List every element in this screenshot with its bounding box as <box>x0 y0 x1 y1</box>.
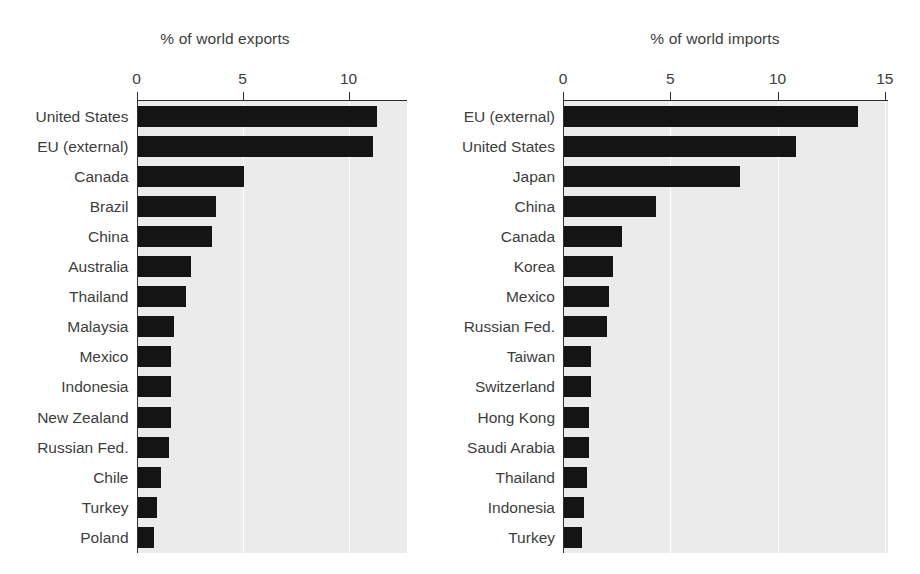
gridline <box>885 101 886 553</box>
x-axis-tick-label: 5 <box>238 70 247 88</box>
category-labels-exports: United StatesEU (external)CanadaBrazilCh… <box>1 101 129 553</box>
category-label: Malaysia <box>67 316 128 337</box>
x-axis-tick-label: 15 <box>876 70 893 88</box>
category-label: Japan <box>513 166 555 187</box>
category-label: Indonesia <box>61 376 128 397</box>
bar <box>138 136 373 157</box>
bar <box>138 286 187 307</box>
chart-title-exports: % of world exports <box>80 30 370 48</box>
category-label: Thailand <box>69 286 128 307</box>
category-label: EU (external) <box>464 106 555 127</box>
bar <box>138 196 216 217</box>
category-label: Korea <box>514 256 555 277</box>
bar <box>138 497 157 518</box>
x-axis-tick <box>563 92 564 101</box>
bar <box>564 346 591 367</box>
category-label: New Zealand <box>37 407 128 428</box>
category-label: Russian Fed. <box>464 316 555 337</box>
x-axis-tick-label: 0 <box>132 70 141 88</box>
bar <box>564 497 584 518</box>
category-label: Canada <box>74 166 128 187</box>
category-label: Mexico <box>79 346 128 367</box>
bar <box>564 106 858 127</box>
category-label: EU (external) <box>37 136 128 157</box>
category-label: Thailand <box>496 467 555 488</box>
x-axis-tick-label: 10 <box>340 70 357 88</box>
category-label: Turkey <box>508 527 555 548</box>
plot-area-exports <box>137 101 408 553</box>
bar <box>564 256 613 277</box>
bar <box>564 166 740 187</box>
gridline <box>349 101 350 553</box>
category-label: Switzerland <box>475 376 555 397</box>
category-label: Taiwan <box>507 346 555 367</box>
gridline <box>778 101 779 553</box>
category-label: United States <box>35 106 128 127</box>
bar <box>138 437 170 458</box>
category-label: Chile <box>93 467 128 488</box>
category-label: Turkey <box>82 497 129 518</box>
bar <box>564 527 582 548</box>
bar <box>138 407 172 428</box>
chart-panel-exports: % of world exports 0510 United StatesEU … <box>0 0 460 574</box>
bar <box>138 467 161 488</box>
x-axis-tick <box>670 92 671 101</box>
category-label: Mexico <box>506 286 555 307</box>
x-axis-imports: 051015 <box>563 67 888 101</box>
x-axis-tick-label: 10 <box>769 70 786 88</box>
bar <box>564 467 587 488</box>
bar <box>138 527 155 548</box>
x-axis-tick <box>885 92 886 101</box>
category-label: United States <box>462 136 555 157</box>
x-axis-exports: 0510 <box>137 67 408 101</box>
category-label: China <box>88 226 129 247</box>
bar <box>138 256 191 277</box>
bar <box>138 346 172 367</box>
category-label: Brazil <box>90 196 129 217</box>
bar <box>138 106 378 127</box>
bar <box>138 316 174 337</box>
plot-area-imports <box>563 101 888 553</box>
x-axis-tick <box>137 92 138 101</box>
category-label: Hong Kong <box>477 407 555 428</box>
category-label: Indonesia <box>488 497 555 518</box>
bar <box>564 226 622 247</box>
x-axis-tick <box>243 92 244 101</box>
x-axis-tick <box>349 92 350 101</box>
x-axis-tick-label: 5 <box>666 70 675 88</box>
bar <box>564 196 656 217</box>
bar <box>564 407 589 428</box>
category-label: Poland <box>80 527 128 548</box>
category-label: China <box>515 196 556 217</box>
bar <box>564 437 589 458</box>
category-label: Russian Fed. <box>37 437 128 458</box>
bar <box>564 136 796 157</box>
x-axis-tick-label: 0 <box>559 70 568 88</box>
category-label: Saudi Arabia <box>467 437 555 458</box>
bar <box>138 226 212 247</box>
category-label: Australia <box>68 256 128 277</box>
figure: % of world exports 0510 United StatesEU … <box>0 0 920 574</box>
chart-title-imports: % of world imports <box>570 30 860 48</box>
category-label: Canada <box>501 226 555 247</box>
bar <box>564 286 609 307</box>
bar <box>138 166 244 187</box>
bar <box>138 376 172 397</box>
bar <box>564 316 607 337</box>
x-axis-tick <box>778 92 779 101</box>
chart-panel-imports: % of world imports 051015 EU (external)U… <box>460 0 920 574</box>
bar <box>564 376 591 397</box>
category-labels-imports: EU (external)United StatesJapanChinaCana… <box>427 101 555 553</box>
